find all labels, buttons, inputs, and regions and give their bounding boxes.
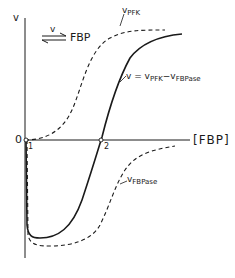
v-pfk-label: vPFK	[122, 6, 140, 15]
point-2-label: 2	[104, 143, 109, 151]
point-1-label: 1	[28, 143, 33, 151]
origin-label: 0	[15, 134, 22, 145]
x-axis-label: [FBP]	[193, 134, 230, 146]
leader-fbpase	[120, 181, 127, 184]
v-pfk-subscript: PFK	[127, 9, 140, 17]
v-net-minus: −v	[163, 71, 176, 81]
v-net-label: v = vPFK−vFBPase	[126, 72, 201, 81]
v-fbpase-label: vFBPase	[127, 175, 157, 184]
v-fbpase-subscript: FBPase	[132, 178, 157, 186]
leader-pfk	[120, 14, 124, 26]
equilibrium-arrow-icon	[42, 33, 66, 43]
curve-v-pfk	[25, 30, 165, 140]
reaction-product-label: FBP	[70, 32, 91, 43]
reaction-rate-label: v	[50, 25, 55, 34]
v-net-sub-fbpase: FBPase	[176, 75, 201, 83]
curve-v-fbpase	[27, 140, 175, 246]
steady-state-point-2	[99, 138, 103, 142]
v-net-sub-pfk: PFK	[150, 75, 163, 83]
y-axis-label: v	[13, 13, 19, 23]
v-net-lhs: v = v	[126, 71, 150, 81]
curve-v-net	[26, 34, 182, 238]
